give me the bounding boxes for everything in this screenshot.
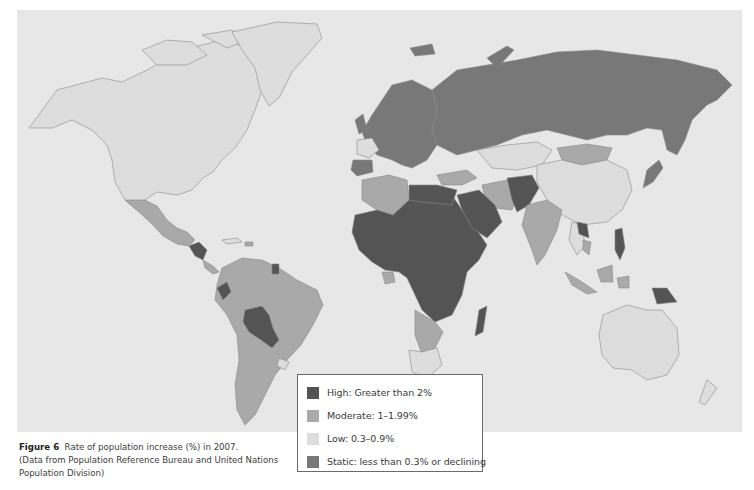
region-russia	[432, 50, 732, 155]
figure-caption: Figure 6 Rate of population increase (%)…	[19, 441, 299, 480]
swatch-moderate	[307, 410, 319, 422]
region-central-america-high	[189, 242, 207, 260]
region-india	[522, 200, 562, 265]
region-mexico	[125, 200, 195, 246]
region-madagascar	[475, 306, 487, 336]
region-north-america	[29, 40, 267, 210]
legend-item-high: High: Greater than 2%	[307, 381, 482, 404]
choropleth-map	[17, 10, 742, 432]
legend-label-high: High: Greater than 2%	[327, 387, 432, 398]
swatch-static	[307, 456, 319, 468]
legend-label-static: Static: less than 0.3% or declining	[327, 456, 486, 467]
region-australia	[599, 305, 679, 380]
legend-label-moderate: Moderate: 1–1.99%	[327, 410, 418, 421]
legend-item-static: Static: less than 0.3% or declining	[307, 450, 482, 473]
legend-item-low: Low: 0.3–0.9%	[307, 427, 482, 450]
swatch-low	[307, 433, 319, 445]
world-map	[17, 10, 742, 432]
figure-label: Figure 6	[19, 442, 59, 452]
swatch-high	[307, 387, 319, 399]
legend-label-low: Low: 0.3–0.9%	[327, 433, 394, 444]
legend-item-moderate: Moderate: 1–1.99%	[307, 404, 482, 427]
region-indonesia	[565, 272, 597, 294]
map-legend: High: Greater than 2% Moderate: 1–1.99% …	[297, 374, 483, 472]
caption-source: (Data from Population Reference Bureau a…	[19, 455, 278, 478]
caption-title: Rate of population increase (%) in 2007.	[65, 442, 239, 452]
